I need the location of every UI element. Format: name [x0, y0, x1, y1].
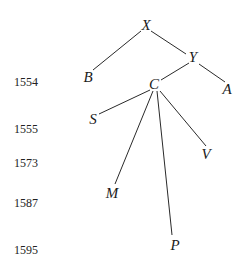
edge-c-m — [115, 91, 153, 184]
edge-x-b — [93, 31, 141, 70]
edge-c-p — [157, 91, 172, 235]
node-m: M — [106, 186, 119, 201]
edge-x-y — [151, 31, 186, 54]
edge-y-a — [199, 64, 225, 82]
node-p: P — [170, 238, 179, 253]
node-v: V — [201, 147, 210, 162]
year-label-1595: 1595 — [14, 244, 38, 256]
node-a: A — [222, 82, 231, 97]
edge-c-s — [99, 90, 150, 114]
node-c: C — [149, 77, 159, 92]
stemma-diagram: X Y B A C S V M P 1554 1555 1573 1587 15… — [0, 0, 242, 270]
year-label-1587: 1587 — [14, 197, 38, 209]
year-label-1555: 1555 — [14, 123, 38, 135]
edge-c-v — [160, 91, 206, 146]
node-y: Y — [189, 50, 197, 65]
year-label-1554: 1554 — [14, 76, 38, 88]
node-x: X — [141, 18, 150, 33]
year-label-1573: 1573 — [14, 157, 38, 169]
node-s: S — [89, 112, 97, 127]
edge-y-c — [161, 63, 189, 80]
node-b: B — [83, 70, 92, 85]
